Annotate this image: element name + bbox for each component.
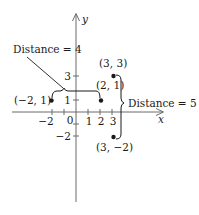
point-dot-icon <box>111 135 115 139</box>
coordinate-plane-diagram: x y −2 0 1 2 3 3 1 −2 Distance = 4 Dista <box>0 0 199 215</box>
point-dot-icon <box>111 74 115 78</box>
point-dot-icon <box>99 98 103 102</box>
y-tick-label-neg2: −2 <box>56 130 71 142</box>
y-axis: y <box>73 13 90 202</box>
x-axis-label: x <box>158 113 164 125</box>
x-tick-label-2: 2 <box>98 115 105 127</box>
point-neg2-1: (−2, 1) <box>14 94 54 106</box>
y-axis-label: y <box>81 13 89 25</box>
point-2-1: (2, 1) <box>96 79 124 103</box>
y-tick-labels: 3 1 −2 <box>56 70 71 142</box>
x-tick-label-neg2: −2 <box>38 115 53 127</box>
point-3-neg2: (3, −2) <box>96 135 133 153</box>
point-label: (3, 3) <box>99 57 127 69</box>
point-3-3: (3, 3) <box>99 57 127 78</box>
x-tick-labels: −2 0 1 2 3 <box>38 114 116 127</box>
distance-5-label: Distance = 5 <box>128 97 197 109</box>
x-tick-label-0: 0 <box>67 114 74 126</box>
point-label: (2, 1) <box>96 79 124 91</box>
x-tick-label-3: 3 <box>110 115 117 127</box>
point-label: (3, −2) <box>96 141 133 153</box>
x-tick-label-1: 1 <box>86 115 93 127</box>
distance-4-label: Distance = 4 <box>13 43 82 55</box>
y-tick-label-1: 1 <box>64 94 71 106</box>
point-label: (−2, 1) <box>14 94 51 106</box>
y-tick-label-3: 3 <box>64 70 71 82</box>
distance-4-leader-line <box>27 57 63 88</box>
